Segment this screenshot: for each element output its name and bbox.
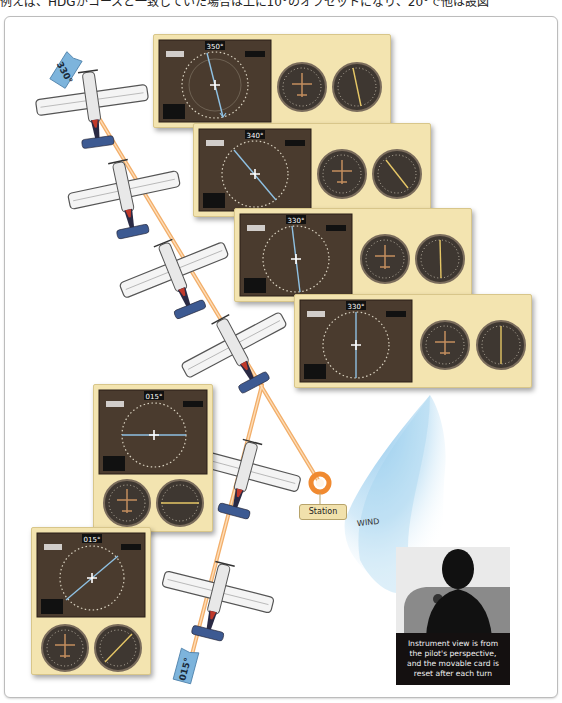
- instrument-panel-5: 015°: [93, 384, 213, 532]
- instrument-panel-3: 330°: [234, 208, 472, 302]
- pilot-view-inset: Instrument view is from the pilot's pers…: [396, 547, 510, 685]
- caption-line-1: Instrument view is from: [396, 639, 510, 649]
- adf-indicator-icon: [95, 625, 141, 671]
- heading-indicator-icon: [421, 321, 469, 369]
- panel-3-heading: 330°: [288, 217, 305, 225]
- panel-5-heading: 015°: [146, 393, 163, 401]
- heading-indicator-icon: [318, 150, 366, 198]
- adf-indicator-icon: [416, 235, 464, 283]
- caption-line-4: reset after each turn: [396, 669, 510, 679]
- panel-6-heading: 015°: [84, 536, 101, 544]
- station-label: Station: [299, 504, 347, 520]
- instrument-panel-2: 340°: [193, 123, 431, 217]
- panel-1-heading: 350°: [207, 43, 224, 51]
- panel-4-heading: 330°: [348, 303, 365, 311]
- caption-line-2: the pilot's perspective,: [396, 649, 510, 659]
- heading-indicator-icon: [104, 480, 150, 526]
- instrument-panel-4: 330°: [294, 294, 532, 388]
- pilot-caption: Instrument view is from the pilot's pers…: [396, 639, 510, 679]
- heading-indicator-icon: [278, 63, 326, 111]
- heading-indicator-icon: [361, 235, 409, 283]
- instrument-panel-1: 350°: [153, 34, 391, 128]
- heading-indicator-icon: [42, 625, 88, 671]
- adf-indicator-icon: [333, 63, 381, 111]
- caption-line-3: and the movable card is: [396, 659, 510, 669]
- instrument-panel-6: 015°: [31, 527, 151, 675]
- adf-indicator-icon: [157, 480, 203, 526]
- adf-indicator-icon: [373, 150, 421, 198]
- adf-indicator-icon: [477, 321, 525, 369]
- panel-2-heading: 340°: [247, 132, 264, 140]
- station-icon: [311, 474, 329, 504]
- instrument-panel-1-art: 350°: [154, 35, 390, 127]
